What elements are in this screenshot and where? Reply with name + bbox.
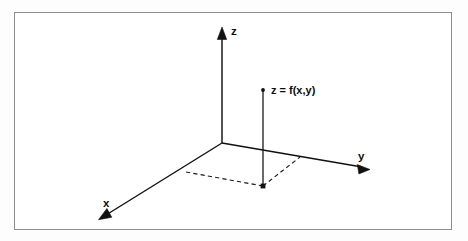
dashed-segment-foot-to-y <box>263 157 300 186</box>
projection-foot-marker <box>261 184 266 189</box>
y-axis-line <box>222 143 362 167</box>
y-axis-arrowhead <box>357 165 370 174</box>
axis-group-z <box>217 27 226 143</box>
projection-rectangle-dashed <box>186 157 300 186</box>
x-axis-label: x <box>103 197 110 209</box>
function-point-group <box>261 88 266 188</box>
x-axis-arrowhead <box>99 209 112 220</box>
function-point-label: z = f(x,y) <box>271 84 316 96</box>
x-axis-line <box>106 143 222 215</box>
axes-diagram-svg: z y x z = f(x,y) <box>0 0 468 241</box>
z-axis-label: z <box>231 25 237 37</box>
dashed-segment-x-to-foot <box>186 172 263 186</box>
axis-group-x <box>99 143 223 220</box>
z-axis-arrowhead <box>217 27 226 40</box>
function-point-marker <box>261 88 265 92</box>
axis-group-y <box>222 143 370 174</box>
y-axis-label: y <box>358 150 365 162</box>
figure-root: z y x z = f(x,y) <box>0 0 468 241</box>
